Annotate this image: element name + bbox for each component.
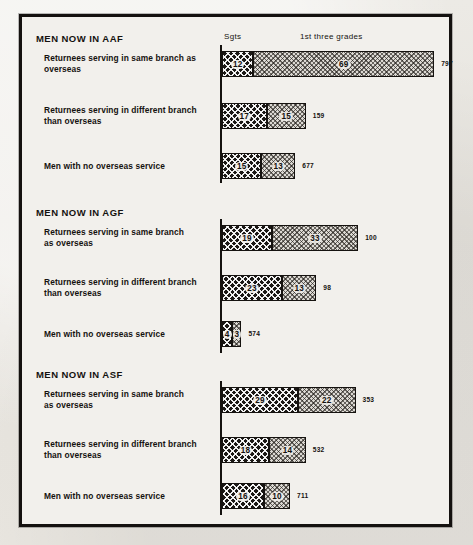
bar-segment-value: 69 — [337, 60, 351, 69]
bar-segment-first-three-grades: 13 — [282, 275, 316, 301]
bar-segment-sgts: 15 — [222, 153, 261, 179]
section-title: MEN NOW IN AAF — [36, 33, 123, 44]
bar-segment-value: 3 — [233, 330, 242, 339]
bar-total-label: 532 — [313, 446, 325, 453]
stacked-bar: 2313 — [222, 275, 316, 301]
bar-row-label: Men with no overseas service — [44, 161, 165, 172]
stacked-bar: 1269 — [222, 51, 434, 77]
bar-segment-value: 12 — [231, 60, 245, 69]
bar-segment-sgts: 23 — [222, 275, 282, 301]
bar-segment-value: 19 — [240, 234, 254, 243]
bar-segment-value: 18 — [239, 446, 253, 455]
bar-total-label: 100 — [365, 234, 377, 241]
column-header-sgts: Sgts — [224, 32, 241, 41]
bar-segment-first-three-grades: 13 — [261, 153, 295, 179]
bar-segment-value: 13 — [272, 162, 286, 171]
bar-segment-first-three-grades: 3 — [232, 321, 241, 347]
bar-row-label: Returnees serving in same branchas overs… — [44, 227, 184, 248]
column-header-first-three-grades: 1st three grades — [300, 32, 363, 41]
bar-segment-sgts: 19 — [222, 225, 272, 251]
stacked-bar: 2922 — [222, 387, 356, 413]
bar-segment-value: 15 — [279, 112, 293, 121]
bar-segment-value: 4 — [223, 330, 232, 339]
bar-row-label: Returnees serving in different branchtha… — [44, 105, 197, 126]
stacked-bar: 1814 — [222, 437, 306, 463]
bar-row-label: Returnees serving in same branch asovers… — [44, 53, 196, 74]
bar-segment-sgts: 16 — [222, 483, 264, 509]
bar-segment-value: 15 — [235, 162, 249, 171]
bar-segment-value: 29 — [253, 396, 267, 405]
bar-total-label: 711 — [297, 492, 308, 499]
bar-total-label: 98 — [323, 284, 331, 291]
bar-segment-value: 23 — [245, 284, 259, 293]
bar-row-label: Returnees serving in same branchas overs… — [44, 389, 184, 410]
bar-row-label: Returnees serving in different branchtha… — [44, 439, 197, 460]
stacked-bar: 1610 — [222, 483, 290, 509]
bar-segment-sgts: 17 — [222, 103, 267, 129]
bar-row-label: Men with no overseas service — [44, 329, 165, 340]
bar-segment-value: 14 — [281, 446, 295, 455]
bar-total-label: 797 — [441, 60, 453, 67]
bar-segment-value: 17 — [238, 112, 252, 121]
bar-segment-sgts: 12 — [222, 51, 253, 77]
bar-segment-first-three-grades: 14 — [269, 437, 306, 463]
bar-segment-sgts: 29 — [222, 387, 298, 413]
bar-total-label: 677 — [302, 162, 314, 169]
bar-segment-value: 33 — [308, 234, 322, 243]
stacked-bar: 1933 — [222, 225, 358, 251]
bar-segment-sgts: 18 — [222, 437, 269, 463]
section-title: MEN NOW IN AGF — [36, 207, 124, 218]
bar-row-label: Men with no overseas service — [44, 491, 165, 502]
bar-segment-value: 13 — [293, 284, 307, 293]
bar-segment-value: 10 — [270, 492, 284, 501]
bar-segment-first-three-grades: 33 — [272, 225, 358, 251]
chart-frame: MEN NOW IN AAFSgts1st three gradesReturn… — [19, 14, 452, 527]
bar-total-label: 353 — [363, 396, 375, 403]
bar-segment-first-three-grades: 69 — [253, 51, 434, 77]
bar-total-label: 159 — [313, 112, 325, 119]
bar-segment-value: 22 — [320, 396, 334, 405]
bar-segment-value: 16 — [236, 492, 250, 501]
section-title: MEN NOW IN ASF — [36, 369, 123, 380]
bar-total-label: 574 — [248, 330, 260, 337]
bar-segment-first-three-grades: 22 — [298, 387, 356, 413]
stacked-bar: 1715 — [222, 103, 306, 129]
stacked-bar: 1513 — [222, 153, 295, 179]
stacked-bar: 43 — [222, 321, 241, 347]
bar-segment-sgts: 4 — [222, 321, 232, 347]
bar-segment-first-three-grades: 10 — [264, 483, 290, 509]
bar-segment-first-three-grades: 15 — [267, 103, 306, 129]
bar-row-label: Returnees serving in different branchtha… — [44, 277, 197, 298]
